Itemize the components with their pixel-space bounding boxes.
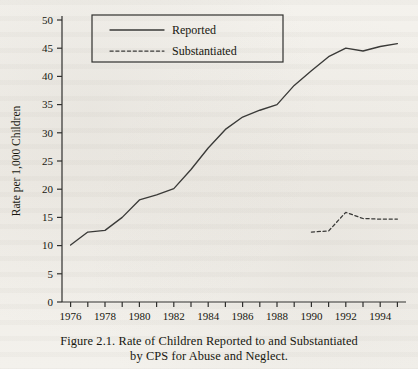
series-line-reported (71, 44, 398, 245)
x-tick-label: 1988 (266, 310, 289, 322)
x-tick-label: 1992 (335, 310, 357, 322)
series-line-substantiated (311, 212, 397, 232)
x-tick-label: 1980 (128, 310, 151, 322)
x-tick-label: 1986 (232, 310, 255, 322)
figure-caption-line-2: by CPS for Abuse and Neglect. (0, 349, 418, 364)
y-tick-label: 50 (42, 14, 54, 26)
x-tick-label: 1984 (197, 310, 220, 322)
y-axis-label: Rate per 1,000 Children (10, 106, 23, 217)
y-tick-label: 35 (42, 98, 54, 110)
y-tick-label: 15 (42, 211, 54, 223)
x-tick-label: 1976 (60, 310, 83, 322)
legend-label-reported: Reported (172, 23, 216, 37)
y-tick-label: 10 (42, 239, 54, 251)
y-tick-label: 25 (42, 155, 54, 167)
y-tick-label: 40 (42, 70, 54, 82)
legend-label-substantiated: Substantiated (172, 44, 237, 58)
line-chart: 0510152025303540455019761978198019821984… (0, 0, 418, 369)
figure-2-1: 0510152025303540455019761978198019821984… (0, 0, 418, 369)
x-tick-label: 1978 (94, 310, 117, 322)
x-tick-label: 1994 (369, 310, 392, 322)
y-tick-label: 0 (48, 296, 54, 308)
x-tick-label: 1990 (300, 310, 323, 322)
figure-caption-line-1: Figure 2.1. Rate of Children Reported to… (0, 334, 418, 349)
y-tick-label: 5 (48, 268, 54, 280)
x-tick-label: 1982 (163, 310, 185, 322)
y-tick-label: 20 (42, 183, 54, 195)
y-tick-label: 30 (42, 127, 54, 139)
y-tick-label: 45 (42, 42, 54, 54)
